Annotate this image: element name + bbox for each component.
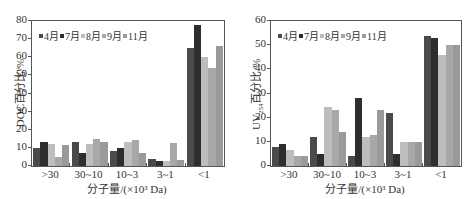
legend-swatch-icon	[278, 34, 282, 38]
y-tick-label: 60	[244, 14, 266, 25]
legend-swatch-icon	[39, 34, 43, 38]
legend-item: 8月	[320, 28, 340, 43]
x-tick-label: 30~10	[69, 168, 109, 180]
bar	[355, 98, 362, 166]
bar	[100, 142, 107, 166]
y-tick-label: 40	[244, 62, 266, 73]
legend-label: 8月	[325, 28, 340, 43]
legend-swatch-icon	[60, 34, 64, 38]
y-tick-mark	[267, 68, 270, 69]
x-tick-mark	[146, 163, 147, 166]
y-tick-mark	[28, 74, 31, 75]
y-tick-label: 50	[244, 38, 266, 49]
y-tick-label: 80	[5, 14, 27, 25]
legend: 4月7月8月9月11月	[39, 28, 148, 43]
bar	[170, 143, 177, 166]
uv254-chart: UV254百分比/% 分子量/(×10³ Da) 0102030405060>3…	[237, 0, 474, 199]
bar	[124, 142, 131, 166]
bar	[93, 139, 100, 166]
y-tick-label: 20	[244, 111, 266, 122]
bar	[62, 145, 69, 166]
x-tick-mark	[308, 163, 309, 166]
x-tick-label: >30	[30, 168, 70, 180]
x-tick-mark	[384, 163, 385, 166]
bar	[163, 161, 170, 166]
legend-item: 11月	[123, 28, 148, 43]
x-tick-label: >30	[269, 168, 309, 180]
bar	[339, 132, 346, 166]
bar	[438, 55, 445, 166]
legend-swatch-icon	[341, 34, 345, 38]
y-tick-mark	[28, 129, 31, 130]
y-tick-mark	[28, 56, 31, 57]
y-tick-label: 10	[5, 141, 27, 152]
x-tick-label: 30~10	[307, 168, 347, 180]
legend-item: 11月	[362, 28, 387, 43]
bar	[187, 48, 194, 166]
x-tick-label: 3~1	[383, 168, 423, 180]
bar	[332, 110, 339, 166]
legend-item: 4月	[39, 28, 59, 43]
bar	[79, 153, 86, 166]
x-tick-mark	[422, 163, 423, 166]
x-tick-label: <1	[421, 168, 461, 180]
legend-swatch-icon	[102, 34, 106, 38]
legend-label: 9月	[107, 28, 122, 43]
bar	[348, 156, 355, 166]
y-tick-label: 60	[5, 50, 27, 61]
legend-item: 7月	[299, 28, 319, 43]
legend-swatch-icon	[81, 34, 85, 38]
legend-item: 4月	[278, 28, 298, 43]
y-tick-mark	[28, 165, 31, 166]
bar	[48, 144, 55, 166]
bar	[362, 137, 369, 166]
bar	[216, 46, 223, 166]
bar	[453, 45, 460, 166]
bar	[310, 137, 317, 166]
legend-label: 8月	[86, 28, 101, 43]
legend-item: 8月	[81, 28, 101, 43]
bar	[272, 147, 279, 166]
bar	[294, 156, 301, 166]
y-tick-mark	[28, 147, 31, 148]
y-tick-label: 30	[244, 87, 266, 98]
y-tick-label: 10	[244, 135, 266, 146]
x-tick-label: 10~3	[345, 168, 385, 180]
bar	[324, 107, 331, 166]
bar	[156, 161, 163, 166]
y-tick-mark	[28, 93, 31, 94]
bar	[201, 57, 208, 166]
bar	[110, 151, 117, 166]
bar	[117, 148, 124, 166]
y-tick-mark	[28, 20, 31, 21]
legend-label: 9月	[346, 28, 361, 43]
legend-item: 7月	[60, 28, 80, 43]
y-tick-mark	[267, 20, 270, 21]
bar	[317, 154, 324, 166]
legend-swatch-icon	[299, 34, 303, 38]
bar	[40, 142, 47, 166]
x-tick-mark	[346, 163, 347, 166]
bar	[132, 140, 139, 166]
bar	[386, 113, 393, 166]
doc-chart: DOC百分比/% 分子量/(×10³ Da) 01020304050607080…	[0, 0, 237, 199]
y-tick-label: 70	[5, 32, 27, 43]
legend-label: 7月	[65, 28, 80, 43]
bar	[400, 142, 407, 166]
x-tick-mark	[69, 163, 70, 166]
legend-label: 4月	[44, 28, 59, 43]
bar	[33, 148, 40, 166]
bar	[194, 25, 201, 166]
bar	[286, 150, 293, 166]
y-tick-mark	[267, 117, 270, 118]
y-tick-label: 0	[5, 159, 27, 170]
legend-item: 9月	[341, 28, 361, 43]
legend-label: 7月	[304, 28, 319, 43]
bar	[177, 160, 184, 166]
x-tick-label: <1	[184, 168, 224, 180]
y-tick-label: 50	[5, 68, 27, 79]
y-tick-mark	[28, 38, 31, 39]
y-tick-mark	[267, 165, 270, 166]
bar	[301, 156, 308, 166]
legend-label: 11月	[128, 28, 148, 43]
